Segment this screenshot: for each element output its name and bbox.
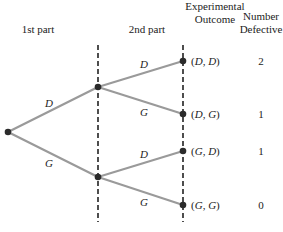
defective-dg: 1: [251, 108, 271, 120]
header-second-part: 2nd part: [122, 23, 172, 36]
branch-label-first-d: D: [45, 97, 53, 109]
outcome-dg: (D, G): [191, 108, 220, 120]
outcome-gd: (G, D): [191, 145, 220, 157]
defective-gd: 1: [251, 145, 271, 157]
branch-label-upper-g: G: [140, 106, 148, 118]
header-number-line2: Defective: [238, 23, 283, 36]
branch-label-upper-d: D: [140, 58, 148, 70]
defective-gg: 0: [251, 199, 271, 211]
header-first-part: 1st part: [16, 23, 60, 36]
branch-label-lower-g: G: [140, 196, 148, 208]
header-number-line1: Number: [238, 10, 283, 23]
branch-root-d: [8, 87, 98, 132]
outcome-gg: (G, G): [191, 199, 220, 211]
header-number-defective: Number Defective: [238, 10, 283, 36]
branch-label-first-g: G: [45, 157, 53, 169]
node-gg: [180, 202, 187, 209]
node-dd: [180, 58, 187, 65]
node-d: [95, 84, 102, 91]
outcome-dd: (D, D): [191, 55, 220, 67]
node-dg: [180, 111, 187, 118]
node-g: [95, 174, 102, 181]
branch-root-g: [8, 132, 98, 177]
node-gd: [180, 148, 187, 155]
branch-label-lower-d: D: [140, 148, 148, 160]
defective-dd: 2: [251, 55, 271, 67]
node-root: [5, 129, 12, 136]
